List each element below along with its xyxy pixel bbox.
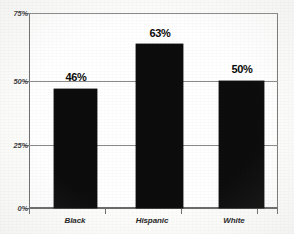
bar-hispanic bbox=[136, 44, 183, 208]
x-tick-mark-0 bbox=[29, 208, 30, 214]
x-tick-mark-1 bbox=[105, 208, 106, 214]
x-axis-label-white: White bbox=[201, 216, 267, 225]
x-axis-label-black: Black bbox=[42, 216, 108, 225]
y-axis-label-75: 75% bbox=[14, 9, 28, 18]
y-axis-label-0: 0% bbox=[18, 204, 28, 213]
x-tick-mark-4 bbox=[277, 208, 278, 214]
gridline-75 bbox=[29, 13, 278, 14]
x-tick-mark-2 bbox=[181, 208, 182, 214]
bar-value-hispanic: 63% bbox=[130, 27, 190, 39]
x-tick-mark-3 bbox=[257, 208, 258, 214]
bar-black bbox=[54, 89, 97, 208]
bar-white bbox=[219, 81, 264, 208]
y-axis-label-25: 25% bbox=[14, 141, 28, 150]
gridline-0-baseline bbox=[29, 208, 278, 209]
bar-chart: 75% 50% 25% 0% 46% 63% 50% Black Hispani… bbox=[0, 0, 294, 234]
y-axis-label-50: 50% bbox=[14, 77, 28, 86]
x-axis-label-hispanic: Hispanic bbox=[119, 216, 185, 225]
bar-value-white: 50% bbox=[212, 63, 272, 75]
bar-value-black: 46% bbox=[46, 71, 106, 83]
